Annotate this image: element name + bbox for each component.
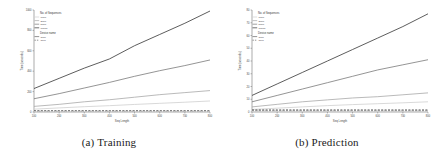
x-tick-label: 800 xyxy=(426,114,431,118)
y-axis-title: Time (seconds) xyxy=(238,51,242,70)
x-axis-title: Seq Length xyxy=(115,119,130,123)
figure-two-panel: 0200400600800100010020030040050060070080… xyxy=(0,0,436,167)
x-tick-label: 300 xyxy=(82,114,87,118)
series-line xyxy=(252,102,428,110)
legend-entry-label: GPU xyxy=(41,36,47,39)
x-tick-label: 200 xyxy=(275,114,280,118)
y-tick-label: 70 xyxy=(247,21,250,25)
chart-prediction: 0102030405060708010020030040050060070080… xyxy=(218,0,436,140)
x-tick-label: 800 xyxy=(208,114,213,118)
legend-group-title: Device name xyxy=(40,31,56,35)
legend-group-title: No. of Sequences xyxy=(40,11,62,15)
series-line xyxy=(34,101,210,109)
x-tick-label: 600 xyxy=(158,114,163,118)
legend-entry-label: 1000 xyxy=(259,16,265,19)
y-tick-label: 20 xyxy=(247,85,250,89)
legend-entry-label: 5000 xyxy=(41,23,47,26)
x-tick-label: 600 xyxy=(376,114,381,118)
x-tick-label: 200 xyxy=(57,114,62,118)
y-tick-label: 0 xyxy=(30,110,32,114)
legend-group-title: Device name xyxy=(258,31,274,35)
legend-entry-label: 10000 xyxy=(259,27,267,30)
legend-entry-label: 1000 xyxy=(41,16,47,19)
chart-group-1: 0102030405060708010020030040050060070080… xyxy=(238,8,431,123)
y-tick-label: 10 xyxy=(247,97,250,101)
x-tick-label: 400 xyxy=(107,114,112,118)
y-tick-label: 800 xyxy=(27,28,32,32)
panel-prediction: 0102030405060708010020030040050060070080… xyxy=(218,0,436,167)
legend-entry-label: 10000 xyxy=(41,27,49,30)
chart-training: 0200400600800100010020030040050060070080… xyxy=(0,0,218,140)
x-tick-label: 700 xyxy=(401,114,406,118)
x-tick-label: 400 xyxy=(325,114,330,118)
chart-svg-prediction: 0102030405060708010020030040050060070080… xyxy=(218,0,436,140)
x-tick-label: 500 xyxy=(350,114,355,118)
y-axis-title: Time (seconds) xyxy=(20,51,24,70)
y-tick-label: 1000 xyxy=(26,8,32,12)
chart-svg-training: 0200400600800100010020030040050060070080… xyxy=(0,0,218,140)
x-tick-label: 300 xyxy=(300,114,305,118)
series-line xyxy=(252,14,428,96)
y-tick-label: 60 xyxy=(247,34,250,38)
legend-entry-label: CPU xyxy=(41,39,46,42)
y-tick-label: 80 xyxy=(247,8,250,12)
legend-entry-label: CPU xyxy=(259,39,264,42)
legend-entry-label: GPU xyxy=(259,36,265,39)
legend-entry-label: 5000 xyxy=(259,23,265,26)
series-line xyxy=(34,11,210,89)
x-tick-label: 100 xyxy=(32,114,37,118)
y-tick-label: 600 xyxy=(27,49,32,53)
y-tick-label: 400 xyxy=(27,69,32,73)
x-tick-label: 100 xyxy=(250,114,255,118)
x-tick-label: 700 xyxy=(183,114,188,118)
panel-training: 0200400600800100010020030040050060070080… xyxy=(0,0,218,167)
legend-group-title: No. of Sequences xyxy=(258,11,280,15)
legend-entry-label: 2000 xyxy=(41,20,47,23)
x-tick-label: 500 xyxy=(132,114,137,118)
y-tick-label: 30 xyxy=(247,72,250,76)
x-axis-title: Seq Length xyxy=(333,119,348,123)
series-line xyxy=(252,60,428,102)
y-tick-label: 0 xyxy=(248,110,250,114)
y-tick-label: 50 xyxy=(247,46,250,50)
legend-entry-label: 2000 xyxy=(259,20,265,23)
chart-group-0: 0200400600800100010020030040050060070080… xyxy=(20,8,213,123)
y-tick-label: 40 xyxy=(247,59,250,63)
y-tick-label: 200 xyxy=(27,90,32,94)
